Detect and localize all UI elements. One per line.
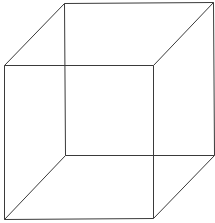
cube-edge-front-bottom-right-to-back-bottom-right [154, 156, 215, 219]
cube-edge-front-top-left-to-back-top-left [5, 4, 65, 66]
cube-edge-back-top-right-to-back-bottom-right [214, 3, 215, 156]
cube-edge-back-bottom-left-to-back-top-left [65, 4, 66, 156]
necker-cube [0, 0, 215, 223]
cube-edge-back-top-left-to-back-top-right [65, 3, 214, 4]
cube-edge-front-bottom-left-to-back-bottom-left [5, 156, 66, 220]
cube-edge-front-bottom-right-to-front-bottom-left [5, 219, 154, 220]
cube-diagram [0, 0, 215, 223]
cube-edge-front-top-right-to-back-top-right [154, 3, 214, 66]
